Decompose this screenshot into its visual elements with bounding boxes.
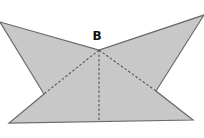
- shaded-polygon: [0, 15, 204, 123]
- point-label-b: B: [92, 29, 101, 43]
- folded-shape-diagram: B: [0, 0, 204, 138]
